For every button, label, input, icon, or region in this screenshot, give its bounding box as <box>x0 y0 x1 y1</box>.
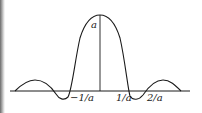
tick-label-2-over-a: 2/a <box>146 92 163 103</box>
tick-label-neg-1-over-a: −1/a <box>70 92 94 103</box>
sinc-diagram: a −1/a 1/a 2/a <box>0 0 202 113</box>
tick-label-1-over-a: 1/a <box>116 92 132 103</box>
sinc-curve <box>15 15 181 99</box>
peak-label: a <box>91 19 97 30</box>
